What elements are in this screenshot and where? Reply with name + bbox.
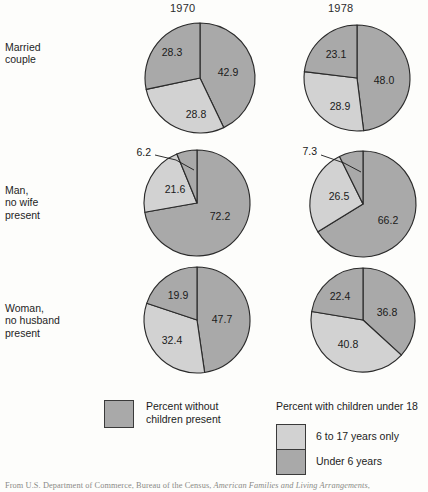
legend-swatch-6-to-17-years — [276, 424, 306, 450]
legend-label-under-6-years: Under 6 years — [316, 455, 382, 468]
legend-label-6-to-17-years: 6 to 17 years only — [316, 430, 399, 443]
pie-slice-label: 28.3 — [162, 46, 183, 58]
pie-slice-label: 40.8 — [338, 338, 359, 350]
pie-slice-label: 28.9 — [330, 100, 351, 112]
pie-chart: 48.028.923.1 — [304, 25, 410, 131]
pie-chart: 47.732.419.9 — [144, 267, 250, 373]
pie-chart: 42.928.828.3 — [145, 23, 255, 133]
legend-swatch-without-children — [104, 400, 134, 428]
pie-chart: 66.226.57.3 — [302, 145, 416, 257]
source-suffix: , — [368, 481, 370, 490]
legend-swatch-under-6-years — [276, 449, 306, 475]
pie-slice-label: 42.9 — [218, 66, 239, 78]
pie-slice-label: 22.4 — [330, 290, 351, 302]
source-prefix: From U.S. Department of Commerce, Bureau… — [5, 481, 214, 490]
pie-chart: 72.221.66.2 — [136, 146, 250, 256]
pie-chart: 36.840.822.4 — [311, 268, 415, 372]
source-title: American Families and Living Arrangement… — [214, 481, 368, 490]
legend-label-without-children: Percent without children present — [146, 400, 221, 425]
pie-slice-label: 21.6 — [165, 183, 186, 195]
pie-slice-label: 19.9 — [168, 289, 189, 301]
source-caption: From U.S. Department of Commerce, Bureau… — [5, 481, 370, 490]
pie-slice-label: 7.3 — [302, 145, 317, 157]
pie-chart-figure: 1970 1978 Married couple Man, no wife pr… — [0, 0, 428, 492]
legend-heading-with-children: Percent with children under 18 — [276, 400, 418, 412]
pie-slice-label: 32.4 — [162, 334, 183, 346]
pie-slice-label: 26.5 — [329, 190, 350, 202]
pie-slice-label: 48.0 — [374, 74, 395, 86]
pie-slice-label: 23.1 — [326, 48, 347, 60]
pie-slice-label: 47.7 — [212, 313, 233, 325]
pie-slice-label: 66.2 — [378, 214, 399, 226]
pie-slice-label: 36.8 — [377, 306, 398, 318]
pie-slice-label: 6.2 — [136, 146, 151, 158]
pie-slice-label: 28.8 — [186, 108, 207, 120]
pie-slice-label: 72.2 — [210, 210, 231, 222]
